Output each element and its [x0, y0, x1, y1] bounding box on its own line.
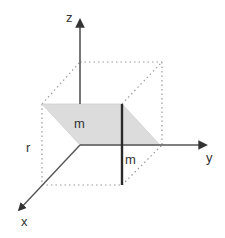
plane-m	[42, 104, 160, 145]
line-m-label: m	[125, 152, 136, 167]
y-axis-label: y	[206, 150, 213, 165]
plane-m-label: m	[74, 116, 85, 131]
x-axis-label: x	[21, 214, 28, 229]
height-r-label: r	[26, 140, 31, 155]
coordinate-diagram: z y x m m r	[0, 0, 225, 238]
z-axis-label: z	[66, 10, 73, 25]
